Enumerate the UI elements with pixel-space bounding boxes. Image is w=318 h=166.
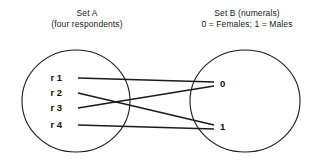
set-b-ellipse	[190, 50, 300, 152]
set-a-element-labels: r 1r 2r 3r 4	[50, 72, 62, 130]
set-ellipses	[22, 50, 300, 152]
set-mapping-diagram: Set A (four respondents) Set B (numerals…	[0, 0, 318, 166]
set-a-element-label-2: r 3	[50, 102, 62, 113]
diagram-canvas: r 1r 2r 3r 4 01	[0, 0, 318, 166]
set-a-element-label-1: r 2	[50, 87, 62, 98]
set-b-element-label-0: 0	[220, 78, 225, 89]
mapping-lines	[78, 78, 214, 129]
set-a-element-label-0: r 1	[50, 72, 62, 83]
set-b-element-labels: 01	[220, 78, 226, 132]
set-a-element-label-3: r 4	[50, 119, 62, 130]
mapping-line-r4-to-1	[78, 125, 214, 129]
mapping-line-r1-to-0	[78, 78, 214, 82]
set-b-element-label-1: 1	[220, 121, 226, 132]
